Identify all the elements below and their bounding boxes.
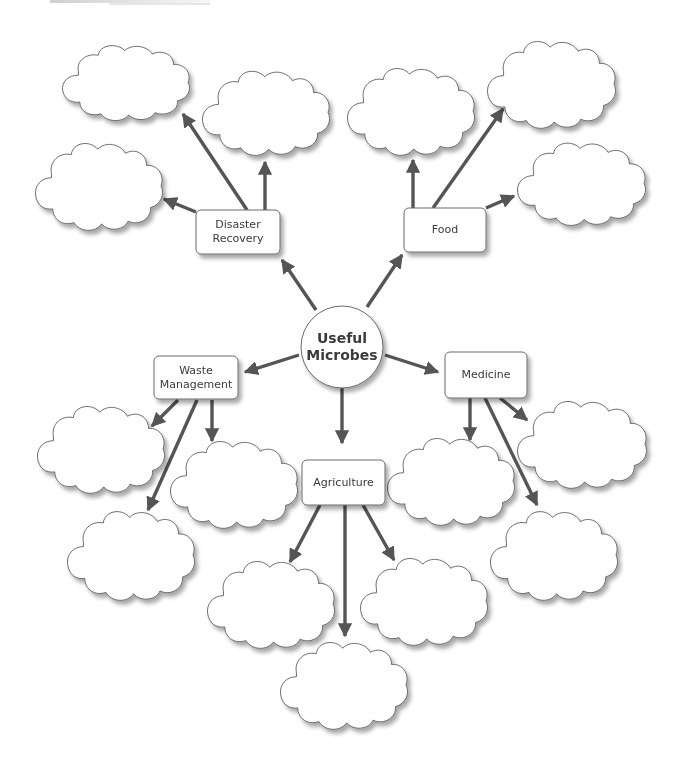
blank-cloud-dr-2[interactable]	[202, 71, 329, 155]
blank-cloud-med-1[interactable]	[387, 439, 514, 526]
branch-label-line1: Medicine	[461, 368, 510, 382]
arrow-to-medicine	[385, 355, 438, 372]
blank-cloud-food-1[interactable]	[347, 69, 474, 156]
branch-medicine[interactable]: Medicine	[445, 352, 527, 398]
branch-agriculture[interactable]: Agriculture	[302, 460, 385, 505]
blank-cloud-ag-1[interactable]	[207, 562, 334, 649]
blank-cloud-ag-2[interactable]	[360, 559, 487, 646]
arrow-dr-cloud-3	[164, 199, 196, 212]
branch-waste-management[interactable]: Waste Management	[154, 356, 238, 399]
blank-cloud-med-2[interactable]	[518, 402, 647, 489]
branch-label-line1: Agriculture	[313, 476, 374, 490]
arrow-wm-cloud-1	[152, 400, 178, 426]
branch-food[interactable]: Food	[404, 208, 486, 252]
blank-cloud-wm-3[interactable]	[67, 512, 194, 601]
arrow-to-food	[367, 255, 402, 307]
center-label-line2: Microbes	[306, 347, 377, 364]
blank-cloud-dr-3[interactable]	[35, 144, 162, 231]
arrow-med-cloud-2	[500, 398, 527, 420]
branch-label-line1: Disaster	[215, 218, 260, 232]
blank-cloud-wm-1[interactable]	[37, 407, 164, 494]
center-label-line1: Useful	[317, 330, 367, 347]
blank-cloud-food-2[interactable]	[487, 42, 615, 129]
blank-cloud-ag-3[interactable]	[280, 643, 407, 730]
arrow-ag-cloud-3	[363, 505, 394, 560]
branch-label-line2: Management	[160, 378, 232, 392]
arrow-to-disaster-recovery	[282, 260, 316, 310]
blank-cloud-wm-2[interactable]	[170, 442, 297, 529]
branch-label-line1: Waste	[179, 364, 213, 378]
blank-cloud-dr-1[interactable]	[62, 46, 189, 121]
arrow-food-cloud-3	[486, 196, 514, 208]
blank-cloud-food-3[interactable]	[517, 143, 645, 225]
branch-disaster-recovery[interactable]: Disaster Recovery	[196, 210, 280, 254]
arrow-to-waste-management	[245, 355, 299, 372]
branch-label-line2: Recovery	[212, 232, 263, 246]
blank-cloud-med-3[interactable]	[490, 512, 617, 601]
arrow-ag-cloud-1	[290, 505, 320, 562]
branch-label-line1: Food	[432, 223, 458, 237]
center-node: Useful Microbes	[301, 312, 383, 382]
